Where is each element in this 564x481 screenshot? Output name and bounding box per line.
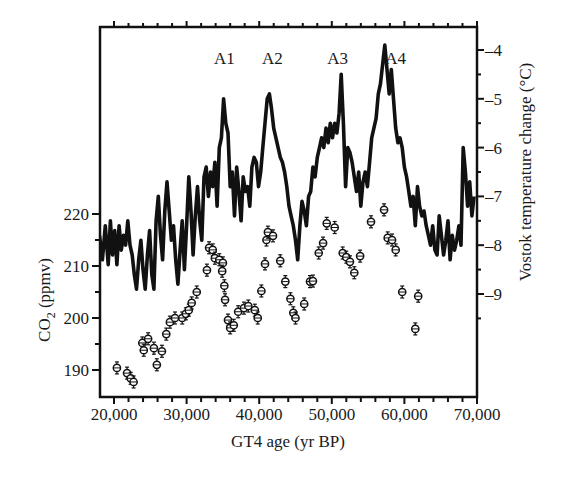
co2-point [163,328,170,340]
co2-point [219,265,226,277]
y-left-tick-label: 190 [64,361,90,380]
y-right-tick-label: –5 [484,90,502,109]
x-axis: 20,00030,00040,00050,00060,00070,000 [91,397,501,424]
y-left-tick-label: 220 [64,205,90,224]
co2-point [301,298,308,310]
co2-point [193,286,200,298]
x-tick-label: 60,000 [381,405,428,424]
y-left-tick-label: 210 [64,257,90,276]
x-tick-label: 50,000 [308,405,355,424]
y-right-axis-title: Vostok temperature change (°C) [516,63,535,281]
co2-point [331,222,338,234]
annotation-a2: A2 [262,49,283,68]
co2-point [399,286,406,298]
co2-point [287,293,294,305]
annotation-a4: A4 [385,49,406,68]
co2-point [203,264,210,276]
y-right-tick-label: –9 [484,285,502,304]
co2-point [351,267,358,279]
x-tick-label: 40,000 [236,405,283,424]
co2-point [367,216,374,228]
y-right-tick-label: –8 [484,236,502,255]
co2-point [323,217,330,229]
co2-point [357,250,364,262]
x-tick-label: 70,000 [454,405,501,424]
co2-point [282,276,289,288]
co2-point [261,258,268,270]
y-right-tick-label: –4 [484,41,503,60]
y-axis-right: –4–5–6–7–8–9 [477,41,503,318]
co2-point [277,255,284,267]
co2-point [153,359,160,371]
annotation-a3: A3 [327,49,348,68]
co2-point [412,323,419,335]
event-annotations: A1A2A3A4 [214,49,407,68]
annotation-a1: A1 [214,49,235,68]
y-right-tick-label: –6 [484,139,502,158]
co2-point [221,294,228,306]
y-right-tick-label: –7 [484,187,503,206]
co2-point [221,280,228,292]
temperature-polyline [100,45,475,289]
x-tick-label: 30,000 [163,405,210,424]
temperature-line [100,45,475,289]
x-tick-label: 20,000 [91,405,138,424]
co2-point [380,204,387,216]
co2-point [113,362,120,374]
chart: 20,00030,00040,00050,00060,00070,000 190… [0,0,564,481]
y-left-tick-label: 200 [64,309,90,328]
x-axis-title: GT4 age (yr BP) [231,432,345,451]
co2-point [158,345,165,357]
co2-point [415,290,422,302]
y-left-axis-title: CO2 (ppmv) [35,258,58,342]
co2-point [150,342,157,354]
co2-point [258,285,265,297]
y-axis-left: 190200210220 [64,205,101,380]
